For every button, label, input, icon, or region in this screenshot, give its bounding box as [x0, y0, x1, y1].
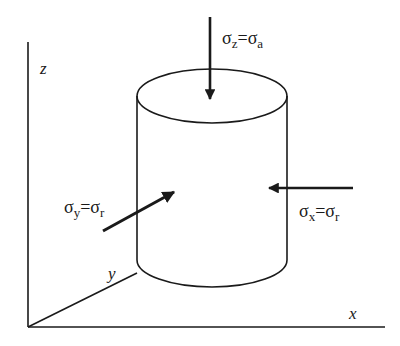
label-sigma-x-equals-sigma-r: σx=σr	[299, 201, 340, 224]
x-axis-label: x	[348, 304, 357, 323]
cylinder-bottom-edge	[137, 260, 287, 287]
coordinate-axes	[28, 42, 385, 327]
y-axis-line	[28, 273, 137, 327]
arrow-sigma-y	[103, 192, 174, 231]
cylinder-top-face	[137, 69, 287, 123]
triaxial-stress-diagram: z y x σz=σa σy=σr σx=σr	[0, 0, 400, 346]
y-axis-label: y	[106, 264, 116, 283]
cylinder-specimen	[137, 69, 287, 287]
z-axis-label: z	[39, 59, 47, 78]
stress-arrows	[103, 17, 353, 231]
label-sigma-z-equals-sigma-a: σz=σa	[222, 28, 263, 51]
label-sigma-y-equals-sigma-r: σy=σr	[64, 197, 105, 220]
